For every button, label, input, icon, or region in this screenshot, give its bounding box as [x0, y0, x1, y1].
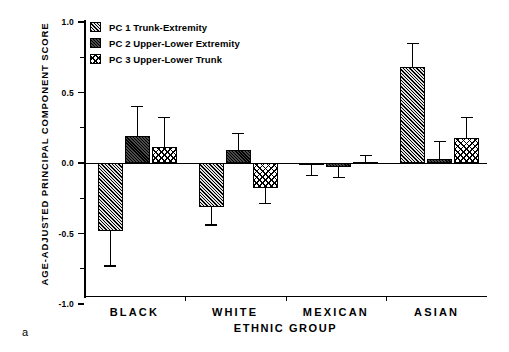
x-axis-label: ETHNIC GROUP: [84, 322, 487, 334]
error-bar-cap: [232, 133, 244, 134]
legend-swatch-pc3: [90, 54, 101, 64]
error-bar-cap: [360, 155, 372, 156]
x-tick-label: MEXICAN: [286, 306, 387, 318]
bar-pc1-black: [98, 163, 123, 231]
x-tick: [185, 296, 186, 301]
error-bar-cap: [131, 106, 143, 107]
bar-pc2-asian: [427, 159, 452, 163]
legend-item: PC 3 Upper-Lower Trunk: [90, 52, 240, 66]
error-bar-cap: [407, 43, 419, 44]
error-bar-stem: [265, 188, 266, 204]
error-bar-cap: [104, 265, 116, 266]
bar-pc2-white: [226, 150, 251, 163]
y-tick-label: 0.5: [48, 88, 74, 98]
legend-swatch-pc1: [90, 22, 101, 32]
x-tick: [386, 296, 387, 301]
error-bar-stem: [211, 207, 212, 225]
y-tick-label: 1.0: [48, 17, 74, 27]
error-bar-stem: [412, 43, 413, 67]
error-bar-stem: [110, 231, 111, 266]
legend-item: PC 1 Trunk-Extremity: [90, 20, 240, 34]
error-bar-cap: [205, 224, 217, 225]
legend-label: PC 2 Upper-Lower Extremity: [109, 38, 240, 49]
y-tick-label: -1.0: [48, 299, 74, 309]
error-bar-stem: [466, 118, 467, 138]
error-bar-stem: [137, 107, 138, 137]
error-bar-cap: [306, 175, 318, 176]
error-bar-cap: [259, 203, 271, 204]
error-bar-cap: [461, 117, 473, 118]
error-bar-stem: [238, 133, 239, 150]
panel-label: a: [22, 326, 28, 338]
legend-item: PC 2 Upper-Lower Extremity: [90, 36, 240, 50]
figure-panel: AGE-ADJUSTED PRINCIPAL COMPONENT SCORE 1…: [0, 0, 509, 352]
legend-swatch-pc2: [90, 38, 101, 48]
bar-pc1-white: [199, 163, 224, 207]
error-bar-stem: [311, 164, 312, 175]
legend-label: PC 3 Upper-Lower Trunk: [109, 54, 222, 65]
legend: PC 1 Trunk-ExtremityPC 2 Upper-Lower Ext…: [90, 20, 240, 68]
bar-pc1-asian: [400, 67, 425, 163]
x-tick-label: ASIAN: [386, 306, 487, 318]
bar-pc3-white: [253, 163, 278, 188]
bar-pc3-mexican: [353, 162, 378, 164]
y-tick-major: [78, 303, 84, 304]
error-bar-stem: [439, 142, 440, 159]
error-bar-stem: [164, 118, 165, 148]
bar-pc3-black: [152, 147, 177, 163]
error-bar-cap: [158, 117, 170, 118]
y-tick-label: 0.0: [48, 158, 74, 168]
legend-label: PC 1 Trunk-Extremity: [109, 22, 207, 33]
x-tick: [286, 296, 287, 301]
y-axis-label: AGE-ADJUSTED PRINCIPAL COMPONENT SCORE: [39, 26, 50, 286]
x-tick-label: BLACK: [84, 306, 185, 318]
error-bar-cap: [333, 177, 345, 178]
bar-pc2-black: [125, 136, 150, 163]
y-tick-label: -0.5: [48, 229, 74, 239]
error-bar-stem: [365, 155, 366, 162]
bar-pc3-asian: [454, 138, 479, 163]
error-bar-cap: [434, 141, 446, 142]
x-tick-label: WHITE: [185, 306, 286, 318]
